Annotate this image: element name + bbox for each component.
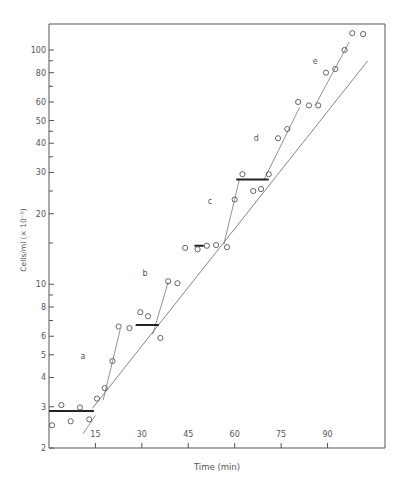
data-point	[183, 245, 188, 250]
y-tick-label: 4	[41, 373, 46, 382]
plot-border	[49, 24, 385, 448]
data-point	[87, 417, 92, 422]
data-point	[316, 103, 321, 108]
step-segment	[224, 180, 239, 245]
y-tick-label: 20	[36, 210, 46, 219]
data-point	[102, 386, 107, 391]
data-point	[175, 281, 180, 286]
exponential-fit-line	[92, 61, 367, 409]
chart-svg: 23456810203040506080100 153045607590 abc…	[0, 0, 407, 485]
data-point	[77, 405, 82, 410]
data-point	[49, 423, 54, 428]
x-tick-label: 45	[183, 430, 193, 439]
y-tick-label: 80	[36, 69, 46, 78]
data-point	[127, 325, 132, 330]
plot-frame	[49, 24, 385, 448]
x-tick-label: 90	[322, 430, 332, 439]
phase-label: d	[254, 134, 259, 143]
x-tick-label: 15	[90, 430, 100, 439]
data-point	[361, 31, 366, 36]
x-tick-label: 60	[230, 430, 240, 439]
data-point	[323, 70, 328, 75]
data-point	[195, 247, 200, 252]
data-point	[296, 99, 301, 104]
phase-label: b	[142, 269, 147, 278]
y-tick-label: 40	[36, 139, 46, 148]
y-tick-label: 6	[41, 332, 46, 341]
data-points	[49, 31, 365, 428]
y-tick-label: 5	[41, 351, 46, 360]
y-axis: 23456810203040506080100	[31, 46, 54, 453]
phase-label: c	[208, 197, 212, 206]
y-tick-label: 3	[41, 403, 46, 412]
data-point	[94, 396, 99, 401]
step-segment	[315, 42, 349, 105]
data-point	[214, 242, 219, 247]
phase-annotations: abcde	[81, 57, 318, 361]
data-point	[251, 188, 256, 193]
data-point	[224, 245, 229, 250]
y-axis-label: Cells/ml (× 10⁻⁵)	[19, 208, 28, 271]
data-point	[68, 419, 73, 424]
step-segment	[153, 282, 168, 334]
data-point	[306, 103, 311, 108]
y-tick-label: 8	[41, 303, 46, 312]
phase-label: a	[81, 352, 86, 361]
data-point	[275, 136, 280, 141]
x-tick-label: 75	[276, 430, 286, 439]
y-tick-label: 30	[36, 168, 46, 177]
y-tick-label: 2	[41, 444, 46, 453]
y-tick-label: 10	[36, 280, 46, 289]
data-point	[240, 172, 245, 177]
y-tick-label: 100	[31, 46, 46, 55]
data-point	[59, 402, 64, 407]
x-axis-label: Time (min)	[193, 462, 240, 472]
data-point	[158, 335, 163, 340]
phase-label: e	[313, 57, 318, 66]
fit-line	[92, 61, 367, 409]
step-segments	[83, 42, 349, 434]
data-point	[350, 31, 355, 36]
data-point	[116, 324, 121, 329]
growth-chart: 23456810203040506080100 153045607590 abc…	[0, 0, 407, 485]
y-tick-label: 60	[36, 98, 46, 107]
x-tick-label: 30	[137, 430, 147, 439]
plateau-lines	[49, 180, 269, 411]
data-point	[204, 243, 209, 248]
data-point	[138, 310, 143, 315]
step-segment	[103, 330, 120, 401]
data-point	[258, 186, 263, 191]
x-axis: 153045607590	[90, 430, 332, 448]
data-point	[145, 314, 150, 319]
data-point	[333, 66, 338, 71]
y-tick-label: 50	[36, 117, 46, 126]
